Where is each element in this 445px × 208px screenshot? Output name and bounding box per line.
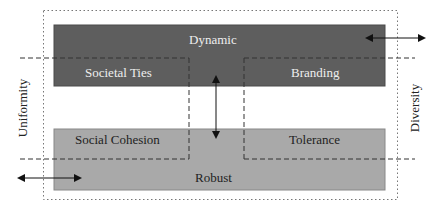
tolerance-label: Tolerance	[289, 132, 340, 148]
social-cohesion-label: Social Cohesion	[75, 132, 160, 148]
branding-label: Branding	[291, 65, 339, 81]
societal-ties-label: Societal Ties	[85, 65, 152, 81]
dynamic-label: Dynamic	[189, 32, 237, 48]
robust-label: Robust	[195, 170, 232, 186]
diversity-axis-label: Diversity	[407, 78, 423, 138]
uniformity-axis-label: Uniformity	[15, 78, 31, 138]
